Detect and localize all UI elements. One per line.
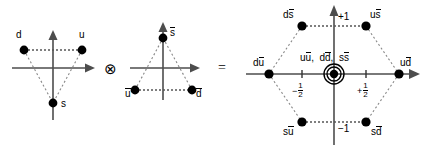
weight-point-ud-bar — [394, 69, 403, 78]
label-antiquark-s-bar: s — [170, 28, 175, 38]
label-center-neutral-states: uu, dd, ss — [300, 53, 349, 63]
axis-tick-label-top: +1 — [338, 12, 349, 22]
label-meson-du-bar: du — [253, 58, 264, 68]
label-meson-ud-bar: ud — [400, 58, 411, 68]
meson-nonet-plot — [238, 0, 426, 147]
label-meson-sd-bar: sd — [371, 127, 382, 137]
fundamental-triplet-plot — [0, 0, 120, 147]
weight-point-d — [20, 46, 29, 55]
label-meson-ds-bar: ds — [283, 10, 294, 20]
label-quark-u: u — [79, 30, 85, 40]
horizontal-axis — [130, 64, 200, 73]
weight-point-u-bar — [131, 86, 140, 95]
label-antiquark-d-bar: d — [196, 89, 202, 99]
weight-point-s — [49, 99, 58, 108]
weight-point-sd-bar — [361, 117, 370, 126]
weight-point-s-bar — [159, 34, 168, 43]
label-meson-su-bar: su — [283, 127, 294, 137]
weight-point-ds-bar — [297, 21, 306, 30]
weight-point-su-bar — [297, 117, 306, 126]
center-degenerate-marker — [324, 64, 344, 84]
axis-tick-label-bottom: −1 — [338, 124, 349, 134]
label-quark-d: d — [16, 30, 22, 40]
weight-point-us-bar — [361, 21, 370, 30]
weight-point-u — [78, 46, 87, 55]
equals-icon: = — [218, 60, 226, 76]
tensor-product-icon: ⊗ — [104, 60, 117, 78]
axis-tick-label-minus-half: − 1 2 — [292, 82, 303, 99]
label-antiquark-u-bar: u — [125, 89, 131, 99]
axis-tick-label-plus-half: + 1 2 — [357, 82, 368, 99]
label-quark-s: s — [61, 99, 66, 109]
label-meson-us-bar: us — [370, 10, 381, 20]
figure-canvas: d u s ⊗ s u d = — [0, 0, 426, 147]
weight-point-du-bar — [264, 69, 273, 78]
